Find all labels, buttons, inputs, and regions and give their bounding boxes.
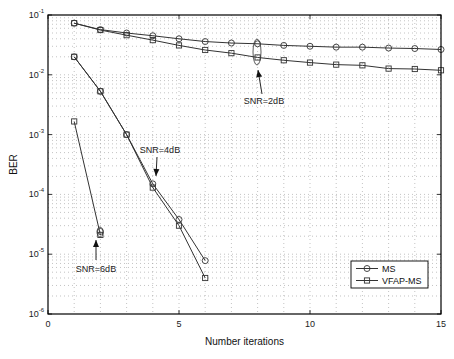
series-ms-4dB: [71, 54, 208, 264]
arrowhead-icon: [256, 70, 262, 77]
x-tick-label: 5: [176, 319, 181, 329]
arrowhead-icon: [93, 240, 99, 247]
x-axis-label: Number iterations: [205, 336, 284, 347]
annotations: SNR=2dBSNR=4dBSNR=6dB: [76, 39, 284, 274]
legend: MSVFAP-MS: [351, 261, 428, 288]
arrowhead-icon: [153, 169, 159, 176]
x-tick-label: 0: [45, 319, 50, 329]
series-vfap-ms-6dB: [72, 119, 103, 238]
annotation-snr-2db: SNR=2dB: [244, 39, 284, 106]
y-tick-label: 10-1: [29, 8, 45, 20]
y-tick-label: 10-2: [29, 68, 45, 80]
y-tick-label: 10-4: [29, 187, 45, 199]
y-tick-label: 10-5: [29, 247, 45, 259]
ber-chart: SNR=2dBSNR=4dBSNR=6dB 051015 10-110-210-…: [0, 0, 454, 359]
y-tick-label: 10-3: [29, 128, 45, 140]
annotation-text: SNR=2dB: [244, 96, 284, 106]
highlight-ellipse: [253, 39, 261, 65]
legend-label: VFAP-MS: [382, 276, 422, 286]
x-tick-label: 15: [436, 319, 446, 329]
x-tick-label: 10: [305, 319, 315, 329]
annotation-text: SNR=4dB: [140, 145, 180, 155]
annotation-snr-6db: SNR=6dB: [76, 227, 116, 274]
y-tick-label: 10-6: [29, 307, 45, 319]
y-axis-label: BER: [8, 154, 19, 175]
legend-label: MS: [382, 264, 396, 274]
annotation-text: SNR=6dB: [76, 264, 116, 274]
